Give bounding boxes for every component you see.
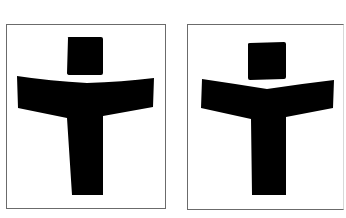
cross-figure-left-icon [17, 37, 154, 195]
figure-head-right [248, 42, 286, 80]
figure-canvas: Glyph variant A (curved arms, tapering s… [0, 0, 346, 218]
figure-body-right [201, 79, 334, 195]
figure-head-left [67, 37, 103, 75]
figure-body-left [17, 76, 154, 195]
glyph-layer [0, 0, 346, 218]
cross-figure-right-icon [201, 42, 334, 195]
